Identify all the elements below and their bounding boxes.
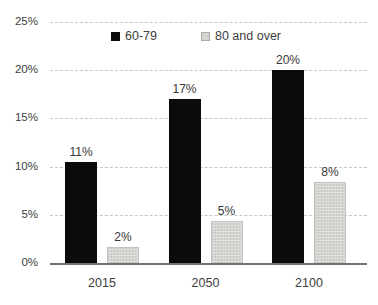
- gridline-15%: [50, 118, 367, 119]
- bar-value-label-80-and-over-2015: 2%: [101, 230, 145, 244]
- legend-label-60-79: 60-79: [125, 29, 157, 43]
- y-tick-label-5%: 5%: [0, 208, 38, 220]
- legend-swatch-60-79: [111, 32, 120, 41]
- y-tick-label-15%: 15%: [0, 111, 38, 123]
- y-tick-label-0%: 0%: [0, 256, 38, 268]
- gridline-25%: [50, 22, 367, 23]
- bar-80-and-over-2100: [314, 182, 346, 263]
- legend-label-80-and-over: 80 and over: [215, 29, 281, 43]
- bar-60-79-2050: [169, 99, 201, 263]
- bar-value-label-60-79-2050: 17%: [163, 82, 207, 96]
- y-tick-label-25%: 25%: [0, 15, 38, 27]
- bar-value-label-80-and-over-2050: 5%: [205, 204, 249, 218]
- bar-value-label-60-79-2100: 20%: [266, 53, 310, 67]
- bar-value-label-60-79-2015: 11%: [59, 145, 103, 159]
- x-axis-line: [50, 263, 367, 265]
- x-tick-label-2015: 2015: [70, 276, 134, 290]
- legend-item-80-and-over: 80 and over: [201, 29, 281, 43]
- y-tick-label-20%: 20%: [0, 63, 38, 75]
- bar-80-and-over-2015: [107, 247, 139, 263]
- bar-chart: 60-79 80 and over 0%5%10%15%20%25%11%2%2…: [0, 0, 378, 305]
- gridline-20%: [50, 70, 367, 71]
- y-tick-label-10%: 10%: [0, 160, 38, 172]
- bar-value-label-80-and-over-2100: 8%: [308, 165, 352, 179]
- bar-80-and-over-2050: [211, 221, 243, 263]
- legend-swatch-80-and-over: [201, 32, 210, 41]
- chart-legend: 60-79 80 and over: [14, 29, 378, 43]
- legend-item-60-79: 60-79: [111, 29, 157, 43]
- bar-60-79-2015: [65, 162, 97, 263]
- bar-60-79-2100: [272, 70, 304, 263]
- x-tick-label-2050: 2050: [174, 276, 238, 290]
- x-tick-label-2100: 2100: [277, 276, 341, 290]
